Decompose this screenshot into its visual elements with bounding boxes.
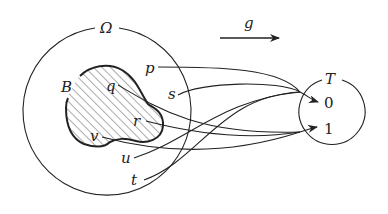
t-label: T bbox=[325, 70, 336, 88]
curve-p-to-0 bbox=[158, 67, 300, 92]
curve-t-to-0 bbox=[144, 92, 300, 180]
point-label-t: t bbox=[131, 171, 138, 189]
t-element-1: 1 bbox=[324, 120, 334, 138]
map-g-label: g bbox=[244, 14, 254, 32]
point-label-p: p bbox=[145, 59, 155, 77]
point-label-s: s bbox=[168, 85, 176, 103]
point-label-u: u bbox=[121, 149, 131, 167]
curve-s-to-0 bbox=[178, 84, 300, 95]
mapping-diagram: Ω B T 0 1 g p s q r v u t bbox=[0, 0, 388, 214]
t-element-0: 0 bbox=[324, 94, 334, 112]
point-label-r: r bbox=[133, 112, 141, 130]
curve-r-to-1 bbox=[146, 121, 300, 136]
b-label: B bbox=[60, 78, 72, 96]
arrow-into-1 bbox=[300, 127, 317, 132]
point-label-q: q bbox=[106, 77, 116, 95]
omega-label: Ω bbox=[99, 19, 112, 37]
point-label-v: v bbox=[90, 127, 99, 145]
